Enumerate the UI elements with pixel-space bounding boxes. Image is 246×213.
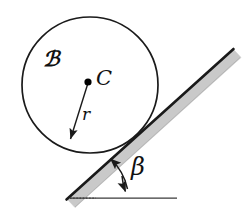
label-center-c: C (96, 68, 112, 89)
label-angle-beta: β (131, 155, 145, 179)
body-circle (22, 17, 158, 153)
label-body-b: ℬ (43, 48, 60, 69)
center-point-dot (84, 78, 91, 85)
label-radius-r: r (82, 106, 90, 123)
figure-canvas: ℬ C r β (0, 0, 246, 213)
mechanics-diagram (0, 0, 246, 213)
